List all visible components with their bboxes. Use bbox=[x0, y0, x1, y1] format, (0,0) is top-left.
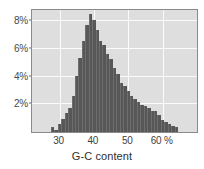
y-tick-mark bbox=[29, 75, 31, 76]
x-tick-label: 30 bbox=[53, 135, 64, 146]
x-tick-label: 60 % bbox=[151, 135, 173, 146]
histogram-bars bbox=[32, 10, 197, 132]
y-axis: 2%4%6%8% bbox=[0, 0, 31, 169]
y-tick-mark bbox=[29, 20, 31, 21]
y-tick-mark bbox=[29, 47, 31, 48]
y-tick-label: 4% bbox=[14, 70, 28, 81]
bar bbox=[175, 127, 178, 132]
y-tick-label: 6% bbox=[14, 42, 28, 53]
chart-figure: 2%4%6%8% 30405060 % G-C content bbox=[0, 0, 204, 169]
plot-area bbox=[31, 9, 198, 133]
x-axis: 30405060 % bbox=[31, 135, 198, 149]
y-tick-mark bbox=[29, 103, 31, 104]
x-tick-label: 50 bbox=[122, 135, 133, 146]
x-tick-label: 40 bbox=[88, 135, 99, 146]
y-tick-label: 8% bbox=[14, 15, 28, 26]
x-axis-title: G-C content bbox=[0, 150, 204, 162]
y-tick-label: 2% bbox=[14, 98, 28, 109]
